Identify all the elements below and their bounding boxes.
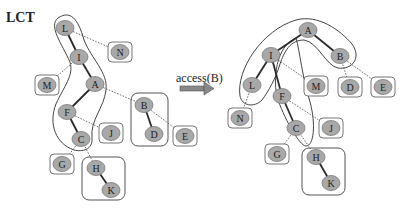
node-after-K: K [322,176,340,191]
svg-text:K: K [107,185,115,196]
svg-text:I: I [77,52,80,63]
svg-text:C: C [78,134,85,145]
node-after-H: H [307,150,325,165]
svg-text:K: K [327,178,335,189]
node-before-D: D [145,127,163,142]
svg-text:F: F [64,107,70,118]
node-after-I: I [262,48,280,63]
node-before-B: B [135,98,153,113]
svg-text:G: G [58,159,65,170]
node-after-F: F [273,89,291,104]
svg-text:M: M [312,81,321,92]
node-before-C: C [72,132,90,147]
svg-text:D: D [346,82,353,93]
svg-text:B: B [337,51,344,62]
node-before-M: M [35,75,59,95]
lct-diagram: LIAFCNMJGBDEHKAIBLFMDENCJGHK [0,0,411,211]
node-before-L: L [56,21,74,36]
node-before-F: F [58,105,76,120]
svg-text:L: L [249,80,255,91]
node-after-D: D [338,77,362,97]
svg-text:L: L [62,23,68,34]
node-after-C: C [287,121,305,136]
svg-text:C: C [293,123,300,134]
node-before-G: G [50,154,74,174]
node-after-N: N [228,108,252,128]
svg-text:D: D [150,129,157,140]
node-after-A: A [299,23,317,38]
svg-text:A: A [91,79,99,90]
svg-text:N: N [236,113,243,124]
node-before-I: I [70,50,88,65]
right-arrow-icon [180,82,214,95]
node-before-K: K [102,183,120,198]
node-after-B: B [331,49,349,64]
svg-text:B: B [141,100,148,111]
svg-text:G: G [273,149,280,160]
node-after-L: L [243,78,261,93]
svg-text:F: F [279,91,285,102]
svg-text:M: M [43,80,52,91]
svg-text:E: E [182,131,188,142]
svg-text:H: H [312,152,319,163]
svg-text:N: N [116,47,123,58]
node-before-A: A [86,77,104,92]
node-after-J: J [319,118,343,138]
svg-text:E: E [380,82,386,93]
svg-text:H: H [92,163,99,174]
node-before-E: E [173,126,197,146]
node-after-M: M [304,76,328,96]
svg-text:J: J [109,128,113,139]
node-after-E: E [371,77,395,97]
node-before-J: J [99,123,123,143]
svg-text:I: I [269,50,272,61]
node-after-G: G [265,144,289,164]
node-before-N: N [108,42,132,62]
svg-text:J: J [329,123,333,134]
svg-text:A: A [304,25,312,36]
node-before-H: H [87,161,105,176]
